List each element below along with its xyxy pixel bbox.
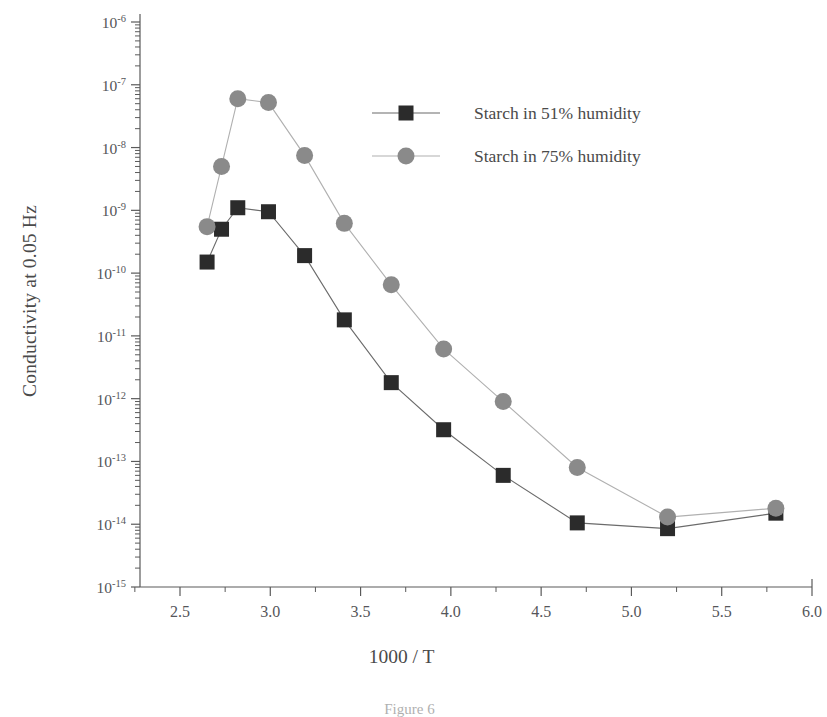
data-point-square [496,468,511,483]
data-point-circle [435,340,452,357]
chart-svg: 10-610-710-810-910-1010-1110-1210-1310-1… [0,0,827,717]
data-point-square [436,422,451,437]
x-tick-label: 5.0 [621,603,641,620]
data-point-square [297,248,312,263]
x-tick-label: 2.5 [170,603,190,620]
data-point-circle [336,215,353,232]
data-point-circle [383,276,400,293]
data-point-circle [659,509,676,526]
y-tick-label: 10-6 [102,13,126,31]
chart-legend: Starch in 51% humidityStarch in 75% humi… [372,103,641,166]
x-tick-label: 4.5 [531,603,551,620]
axes: 10-610-710-810-910-1010-1110-1210-1310-1… [97,13,823,620]
data-point-square [261,204,276,219]
y-tick-label: 10-10 [97,264,127,282]
legend-marker-square [399,106,414,121]
y-tick-label: 10-12 [97,390,127,408]
legend-marker-circle [398,148,415,165]
x-tick-label: 4.0 [441,603,461,620]
data-point-square [337,312,352,327]
y-tick-label: 10-11 [97,327,126,345]
y-tick-label: 10-15 [97,578,127,596]
data-point-circle [213,158,230,175]
x-tick-label: 3.0 [260,603,280,620]
x-axis-label-text: 1000 / T [369,646,435,667]
data-point-circle [229,90,246,107]
data-point-square [230,200,245,215]
y-tick-label: 10-9 [102,201,126,219]
data-point-circle [569,459,586,476]
chart-plot-area: 10-610-710-810-910-1010-1110-1210-1310-1… [0,0,827,717]
x-tick-label: 3.5 [351,603,371,620]
y-tick-label: 10-14 [97,515,127,533]
data-point-square [214,222,229,237]
y-tick-label: 10-8 [102,139,126,157]
data-point-circle [495,393,512,410]
figure-container: 10-610-710-810-910-1010-1110-1210-1310-1… [0,0,827,717]
data-point-circle [296,147,313,164]
y-axis-label: Conductivity at 0.05 Hz [19,131,41,471]
legend-label-0: Starch in 51% humidity [474,103,641,123]
data-point-circle [767,500,784,517]
data-point-square [200,255,215,270]
x-tick-label: 6.0 [802,603,822,620]
x-tick-label: 5.5 [712,603,732,620]
y-tick-label: 10-13 [97,452,127,470]
data-point-square [570,515,585,530]
series-line-0 [207,208,776,529]
data-point-circle [260,94,277,111]
figure-caption-text: Figure 6 [384,702,434,717]
legend-label-1: Starch in 75% humidity [474,146,641,166]
y-tick-label: 10-7 [102,76,126,94]
x-axis-label: 1000 / T [0,646,827,668]
data-point-square [384,375,399,390]
figure-caption: Figure 6 [0,702,827,717]
data-point-circle [199,218,216,235]
